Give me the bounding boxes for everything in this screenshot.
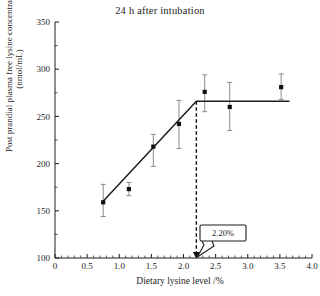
data-point-marker	[279, 85, 283, 89]
data-point-marker	[228, 105, 232, 109]
x-axis-tick-label: 3.5	[274, 261, 286, 271]
y-axis-tick-label: 100	[37, 253, 51, 263]
x-axis-tick-label: 2.5	[210, 261, 222, 271]
data-point-marker	[177, 122, 181, 126]
callout-label: 2.20%	[212, 228, 234, 238]
plot-area: 100150200250300350 00.51.01.52.02.53.03.…	[0, 0, 320, 296]
data-point-marker	[203, 90, 207, 94]
y-axis-tick-label: 250	[37, 112, 51, 122]
data-point-marker	[101, 200, 105, 204]
x-axis-tick-label: 0.5	[82, 261, 94, 271]
y-axis-tick-label: 350	[37, 17, 51, 27]
y-axis-tick-label: 150	[37, 206, 51, 216]
data-point-marker	[151, 145, 155, 149]
callout-pointer-line-2	[197, 241, 214, 257]
x-axis-tick-label: 2.0	[178, 261, 190, 271]
x-axis-tick-label: 4.0	[306, 261, 318, 271]
x-axis: 00.51.01.52.02.53.03.54.0	[53, 254, 318, 271]
error-bars	[101, 74, 284, 217]
y-axis: 100150200250300350	[37, 17, 60, 263]
chart-figure: 24 h after intubation Post prandial plas…	[0, 0, 320, 296]
x-axis-tick-label: 1.0	[114, 261, 126, 271]
breakpoint-callout: 2.20%	[193, 225, 246, 259]
x-axis-tick-label: 1.5	[146, 261, 158, 271]
y-axis-tick-label: 300	[37, 64, 51, 74]
y-axis-tick-label: 200	[37, 159, 51, 169]
x-axis-tick-label: 0	[53, 261, 58, 271]
x-axis-tick-label: 3.0	[242, 261, 254, 271]
data-point-marker	[127, 187, 131, 191]
